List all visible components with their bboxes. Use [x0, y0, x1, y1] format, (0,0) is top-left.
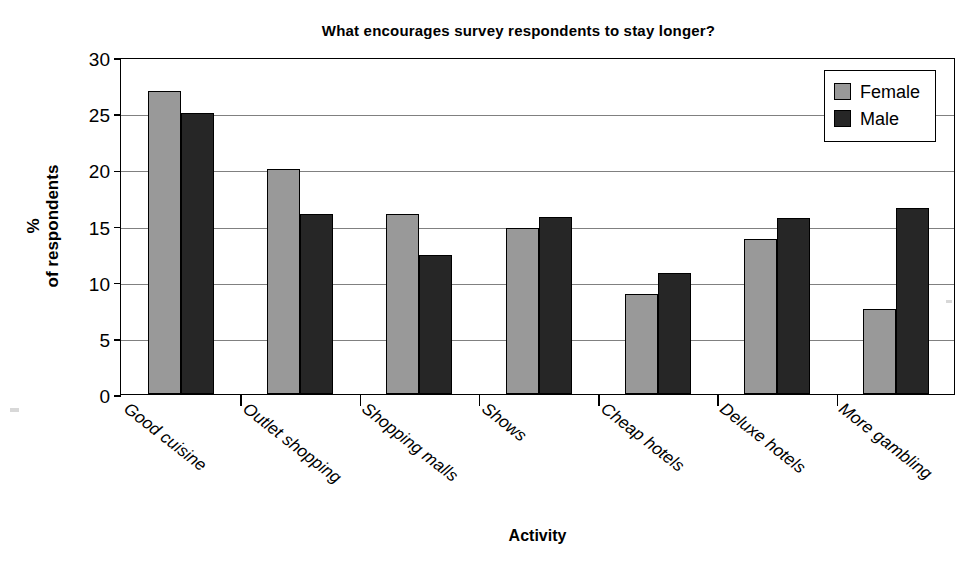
y-tick-label: 10 — [89, 274, 110, 293]
y-tick-label: 15 — [89, 218, 110, 237]
bar-male-0[interactable] — [181, 113, 214, 394]
legend-item-male[interactable]: Male — [834, 105, 935, 132]
category-label-6: More gambling — [835, 399, 936, 484]
category-label-0: Good cuisine — [119, 399, 210, 476]
category-labels: Good cuisineOutlet shoppingShopping mall… — [0, 399, 977, 519]
y-axis-title-line2: of respondents — [43, 165, 62, 288]
bar-female-6[interactable] — [863, 309, 896, 394]
y-tick-label: 30 — [89, 50, 110, 69]
bar-female-0[interactable] — [148, 91, 181, 394]
bar-female-5[interactable] — [744, 239, 777, 394]
y-axis-title: % of respondents — [14, 58, 72, 395]
category-label-3: Shows — [477, 399, 530, 446]
bar-male-5[interactable] — [777, 218, 810, 394]
y-axis-title-line1: % — [24, 165, 43, 288]
scan-speck — [10, 408, 19, 412]
y-tick-mark — [114, 339, 121, 341]
legend-label-female: Female — [860, 83, 920, 101]
chart-figure: What encourages survey respondents to st… — [0, 0, 977, 574]
bar-female-3[interactable] — [506, 228, 539, 394]
bar-male-6[interactable] — [896, 208, 929, 394]
y-tick-mark — [114, 227, 121, 229]
bar-female-4[interactable] — [625, 294, 658, 394]
category-label-5: Deluxe hotels — [716, 399, 809, 478]
scan-speck — [946, 300, 952, 303]
chart-title: What encourages survey respondents to st… — [0, 22, 977, 39]
chart-legend: Female Male — [824, 70, 936, 142]
bar-male-1[interactable] — [300, 214, 333, 394]
y-tick-mark — [114, 283, 121, 285]
y-tick-mark — [114, 58, 121, 60]
y-tick-label: 20 — [89, 162, 110, 181]
y-tick-label: 25 — [89, 106, 110, 125]
y-tick-mark — [114, 171, 121, 173]
bar-male-2[interactable] — [419, 255, 452, 394]
y-tick-label: 5 — [99, 330, 110, 349]
legend-swatch-male-icon — [834, 110, 851, 127]
legend-label-male: Male — [860, 110, 899, 128]
bar-female-1[interactable] — [267, 169, 300, 394]
bar-male-3[interactable] — [539, 217, 572, 394]
category-label-4: Cheap hotels — [596, 399, 687, 476]
y-tick-mark — [114, 395, 121, 397]
bar-female-2[interactable] — [386, 214, 419, 394]
legend-swatch-female-icon — [834, 83, 851, 100]
category-label-2: Shopping malls — [358, 399, 462, 486]
legend-item-female[interactable]: Female — [834, 78, 935, 105]
category-label-1: Outlet shopping — [239, 399, 345, 488]
x-axis-title: Activity — [120, 527, 955, 545]
bar-male-4[interactable] — [658, 273, 691, 394]
y-tick-mark — [114, 114, 121, 116]
